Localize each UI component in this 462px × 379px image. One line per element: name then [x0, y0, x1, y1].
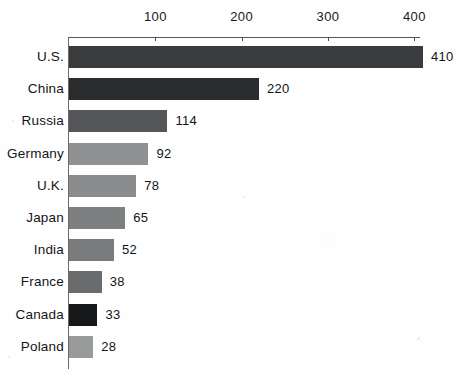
- category-label: Russia: [0, 110, 64, 132]
- bar[interactable]: [69, 271, 102, 293]
- category-label: France: [0, 271, 64, 293]
- bar[interactable]: [69, 78, 259, 100]
- bar-row: U.K.78: [0, 175, 462, 197]
- bar[interactable]: [69, 143, 148, 165]
- bar-row: U.S.410: [0, 46, 462, 68]
- bar-row: Poland28: [0, 336, 462, 358]
- bar-value-label: 33: [105, 304, 120, 326]
- bar-row: Russia114: [0, 110, 462, 132]
- bar-row: Canada33: [0, 304, 462, 326]
- x-tick-mark: [414, 37, 415, 41]
- bar-row: France38: [0, 271, 462, 293]
- paper-speckle: [417, 337, 420, 340]
- bar[interactable]: [69, 207, 125, 229]
- bar-row: China220: [0, 78, 462, 100]
- bar[interactable]: [69, 239, 114, 261]
- bar-value-label: 52: [122, 239, 137, 261]
- category-label: India: [0, 239, 64, 261]
- bar-fill: [69, 271, 102, 293]
- bar-fill: [69, 78, 259, 100]
- bar[interactable]: [69, 110, 167, 132]
- bar[interactable]: [69, 175, 136, 197]
- bar-value-label: 65: [133, 207, 148, 229]
- paper-speckle: [327, 239, 329, 241]
- bar-fill: [69, 304, 97, 326]
- category-label: Poland: [0, 336, 64, 358]
- bar[interactable]: [69, 336, 93, 358]
- bar-value-label: 114: [175, 110, 197, 132]
- x-tick-label: 100: [144, 9, 167, 24]
- x-tick-label: 300: [317, 9, 340, 24]
- paper-speckle: [243, 196, 245, 198]
- bar-chart: 100200300400 U.S.410China220Russia114Ger…: [0, 0, 462, 379]
- x-tick-mark: [242, 37, 243, 41]
- bar-fill: [69, 336, 93, 358]
- top-axis-line: [68, 37, 420, 38]
- bar[interactable]: [69, 304, 97, 326]
- category-label: Japan: [0, 207, 64, 229]
- category-label: U.K.: [0, 175, 64, 197]
- bar-value-label: 38: [110, 271, 125, 293]
- bar-fill: [69, 239, 114, 261]
- bar-value-label: 220: [267, 78, 290, 100]
- category-label: Germany: [0, 143, 64, 165]
- bar-fill: [69, 143, 148, 165]
- bar-row: Germany92: [0, 143, 462, 165]
- bar-fill: [69, 46, 423, 68]
- bar-value-label: 78: [144, 175, 159, 197]
- bar[interactable]: [69, 46, 423, 68]
- x-tick-label: 400: [403, 9, 426, 24]
- bar-row: India52: [0, 239, 462, 261]
- category-label: U.S.: [0, 46, 64, 68]
- category-label: China: [0, 78, 64, 100]
- bar-fill: [69, 207, 125, 229]
- bar-value-label: 92: [156, 143, 171, 165]
- x-tick-label: 200: [230, 9, 253, 24]
- x-tick-mark: [155, 37, 156, 41]
- category-label: Canada: [0, 304, 64, 326]
- paper-speckle: [12, 120, 14, 122]
- bar-value-label: 410: [431, 46, 454, 68]
- bar-row: Japan65: [0, 207, 462, 229]
- x-tick-mark: [328, 37, 329, 41]
- bar-fill: [69, 175, 136, 197]
- paper-speckle: [8, 356, 10, 358]
- bar-value-label: 28: [101, 336, 116, 358]
- bar-fill: [69, 110, 167, 132]
